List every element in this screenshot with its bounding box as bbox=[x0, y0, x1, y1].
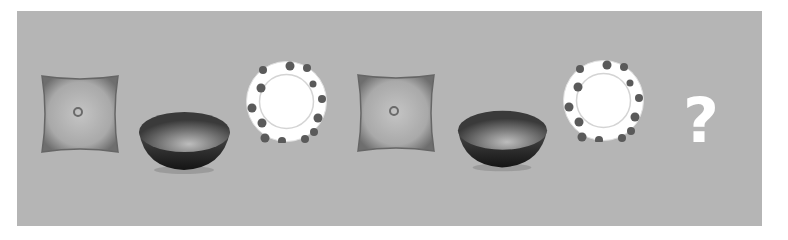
plate-icon bbox=[245, 60, 328, 143]
pillow-icon bbox=[356, 73, 436, 153]
question-mark: ? bbox=[676, 86, 726, 156]
bowl-icon bbox=[456, 108, 549, 174]
bowl-icon bbox=[137, 110, 232, 176]
plate-icon bbox=[562, 59, 645, 142]
pillow-icon bbox=[40, 74, 120, 154]
